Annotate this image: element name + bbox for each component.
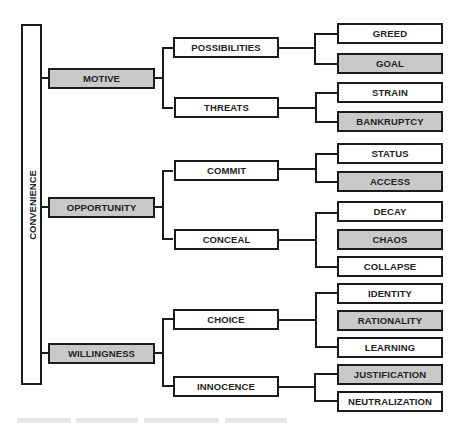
dimension-opportunity: OPPORTUNITY	[48, 197, 155, 218]
root-box-convenience: CONVENIENCE	[21, 24, 42, 385]
connector	[315, 266, 337, 268]
item-identity: IDENTITY	[337, 283, 443, 304]
connector	[162, 170, 164, 240]
connector	[279, 239, 316, 241]
item-collapse: COLLAPSE	[337, 256, 443, 277]
connector	[279, 168, 316, 170]
item-rationality: RATIONALITY	[337, 310, 443, 331]
connector	[162, 107, 173, 109]
connector	[315, 292, 337, 294]
factor-commit: COMMIT	[174, 160, 279, 181]
item-bankruptcy: BANKRUPTCY	[337, 111, 443, 132]
connector	[314, 400, 337, 402]
factor-innocence: INNOCENCE	[173, 376, 279, 397]
connector	[314, 63, 337, 65]
factor-possibilities: POSSIBILITIES	[173, 37, 279, 58]
connector	[162, 318, 164, 387]
connector	[315, 212, 337, 214]
item-access: ACCESS	[337, 171, 443, 192]
item-chaos: CHAOS	[337, 229, 443, 250]
connector	[162, 170, 173, 172]
connector	[315, 292, 317, 347]
connector	[162, 318, 173, 320]
factor-threats: THREATS	[174, 97, 279, 118]
connector	[315, 121, 337, 123]
connector	[315, 346, 337, 348]
connector	[315, 92, 337, 94]
connector	[315, 92, 317, 122]
connector	[314, 33, 337, 35]
figure-caption	[17, 418, 287, 423]
connector	[279, 107, 316, 109]
connector	[279, 386, 315, 388]
connector	[162, 238, 173, 240]
connector	[315, 212, 317, 267]
item-status: STATUS	[337, 143, 443, 164]
connector	[314, 373, 316, 401]
item-neutralization: NEUTRALIZATION	[337, 391, 443, 412]
root-label: CONVENIENCE	[26, 170, 37, 240]
connector	[315, 153, 337, 155]
connector	[162, 47, 173, 49]
item-decay: DECAY	[337, 201, 443, 222]
item-learning: LEARNING	[337, 337, 443, 358]
dimension-motive: MOTIVE	[48, 68, 155, 89]
connector	[314, 33, 316, 64]
connector	[279, 47, 315, 49]
item-goal: GOAL	[337, 53, 443, 74]
factor-choice: CHOICE	[173, 309, 279, 330]
item-strain: STRAIN	[337, 82, 443, 103]
connector	[314, 373, 337, 375]
dimension-willingness: WILLINGNESS	[48, 343, 155, 364]
connector	[315, 153, 317, 182]
factor-conceal: CONCEAL	[174, 229, 279, 250]
connector	[162, 385, 173, 387]
connector	[315, 181, 337, 183]
connector	[279, 319, 316, 321]
item-greed: GREED	[337, 23, 443, 44]
item-justification: JUSTIFICATION	[337, 364, 443, 385]
connector	[162, 47, 164, 109]
